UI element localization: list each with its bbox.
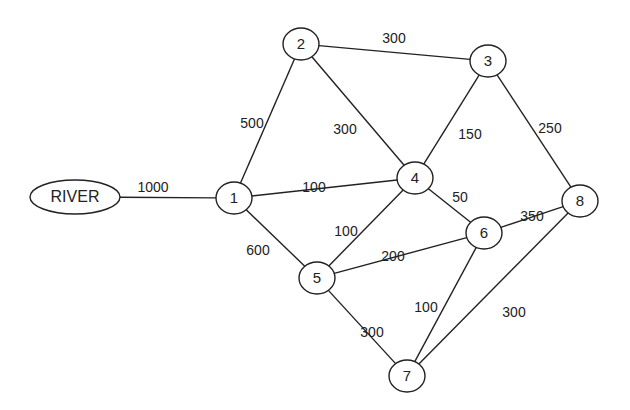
node-2: 2 xyxy=(283,28,319,60)
node-label: RIVER xyxy=(51,188,100,205)
node-1: 1 xyxy=(216,182,252,214)
node-5: 5 xyxy=(299,262,335,294)
edge-1-5 xyxy=(246,210,305,266)
edge-weight-label: 600 xyxy=(246,242,270,258)
edge-weight-label: 500 xyxy=(240,115,264,131)
edge-2-4 xyxy=(312,57,404,165)
nodes-layer: RIVER12345678 xyxy=(30,28,598,392)
node-label: 6 xyxy=(480,224,488,241)
edge-weight-label: 100 xyxy=(302,179,326,195)
node-label: 7 xyxy=(403,367,411,384)
edge-weight-label: 150 xyxy=(458,126,482,142)
edge-weight-label: 1000 xyxy=(137,179,168,195)
edge-weight-label: 250 xyxy=(538,120,562,136)
edge-weight-label: 50 xyxy=(452,189,468,205)
edge-weight-label: 100 xyxy=(414,299,438,315)
node-label: 5 xyxy=(313,269,321,286)
edge-weight-label: 300 xyxy=(333,121,357,137)
edge-2-3 xyxy=(319,46,470,60)
edge-weight-label: 350 xyxy=(520,208,544,224)
node-label: 1 xyxy=(230,189,238,206)
edge-weight-label: 300 xyxy=(502,304,526,320)
edge-weight-label: 200 xyxy=(381,248,405,264)
edge-river-1 xyxy=(120,197,216,198)
node-7: 7 xyxy=(389,360,425,392)
network-diagram: 1000500100600300300150250100502003503001… xyxy=(0,0,630,410)
edge-weight-label: 300 xyxy=(360,324,384,340)
node-3: 3 xyxy=(470,45,506,77)
node-label: 4 xyxy=(411,169,419,186)
node-label: 3 xyxy=(484,52,492,69)
node-label: 2 xyxy=(297,35,305,52)
edge-weight-label: 100 xyxy=(334,223,358,239)
node-6: 6 xyxy=(466,217,502,249)
node-label: 8 xyxy=(576,192,584,209)
node-river: RIVER xyxy=(30,180,120,214)
edge-3-4 xyxy=(424,75,480,164)
node-8: 8 xyxy=(562,185,598,217)
node-4: 4 xyxy=(397,162,433,194)
edge-weight-label: 300 xyxy=(382,30,406,46)
